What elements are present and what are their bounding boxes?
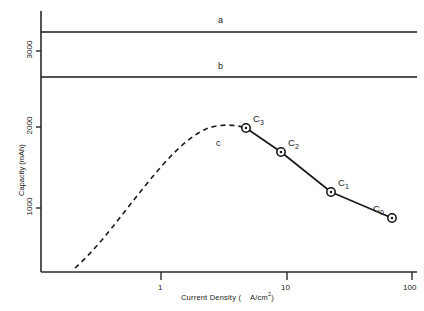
chart-figure: Capacity (mAh) 3000 2000 1000 1 10 100 C… [0,0,424,311]
point-label-c2-text: C [288,137,295,148]
curve-label-a: a [218,15,223,25]
curve-label-c: c [216,138,221,148]
point-label-c0-text: C [373,203,380,214]
y-tick-label-1000: 1000 [25,198,34,216]
point-label-c1-subscript: 1 [345,183,349,190]
point-label-c2-subscript: 2 [295,143,299,150]
x-axis-title-close: ) [271,293,274,302]
point-label-c0-subscript: 0 [380,209,384,216]
x-axis-title-unit: A/cm [250,293,268,302]
x-tick-label-1: 1 [158,283,162,292]
point-label-c3: C3 [253,113,264,126]
curve-label-b: b [218,61,223,71]
y-axis-title: Capacity (mAh) [17,144,26,196]
x-axis-title: Current Density (A/cm2) [181,291,274,302]
point-label-c1: C1 [338,177,349,190]
point-label-c1-text: C [338,177,345,188]
series-c-solid [246,128,392,218]
point-label-c2: C2 [288,137,299,150]
marker-c2 [277,148,285,156]
point-label-c3-text: C [253,113,260,124]
chart-canvas [0,0,424,311]
marker-c1 [327,188,335,196]
marker-c3 [242,124,250,132]
marker-c0 [388,214,396,222]
point-label-c3-subscript: 3 [260,119,264,126]
point-label-c0: C0 [373,203,384,216]
y-tick-label-2000: 2000 [25,117,34,135]
x-axis-title-main: Current Density ( [181,293,241,302]
x-tick-label-100: 100 [403,283,416,292]
y-tick-label-3000: 3000 [25,41,34,59]
x-tick-label-10: 10 [281,283,290,292]
